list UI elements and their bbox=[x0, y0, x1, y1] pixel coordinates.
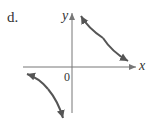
curve-branch-upper-right bbox=[81, 16, 128, 61]
curve-branch-lower-left bbox=[27, 74, 63, 118]
x-axis-label: x bbox=[139, 58, 145, 74]
origin-label: 0 bbox=[64, 70, 70, 85]
y-axis-label: y bbox=[62, 8, 68, 24]
graph bbox=[0, 0, 154, 131]
